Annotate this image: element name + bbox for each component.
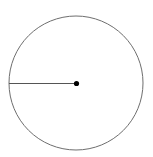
center-point [74, 81, 79, 86]
circle-radius-diagram [0, 0, 153, 157]
